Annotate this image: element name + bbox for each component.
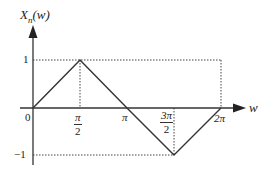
y-axis-arrow-icon: [29, 25, 38, 38]
x-tick-three-half-pi: 3π 2: [160, 110, 173, 135]
y-axis-label: Xn(w): [20, 8, 50, 25]
y-tick-1: 1: [23, 54, 29, 65]
x-tick-three-half-pi-num: 3π: [160, 110, 173, 121]
x-axis-label: w: [249, 101, 258, 114]
y-axis-label-base: X: [20, 7, 28, 22]
x-tick-half-pi-den: 2: [75, 126, 81, 137]
x-tick-half-pi-num: π: [74, 112, 82, 123]
x-tick-pi: π: [122, 112, 128, 123]
x-axis-arrow-icon: [233, 104, 246, 113]
y-tick-neg1: −1: [14, 149, 26, 160]
x-tick-three-half-pi-den: 2: [164, 124, 170, 135]
origin-label: 0: [25, 112, 31, 123]
y-axis-label-arg: (w): [32, 7, 49, 22]
x-tick-two-pi: 2π: [214, 113, 225, 124]
chart-plot: [0, 0, 269, 177]
x-tick-half-pi: π 2: [74, 112, 82, 137]
axes: [20, 25, 246, 165]
